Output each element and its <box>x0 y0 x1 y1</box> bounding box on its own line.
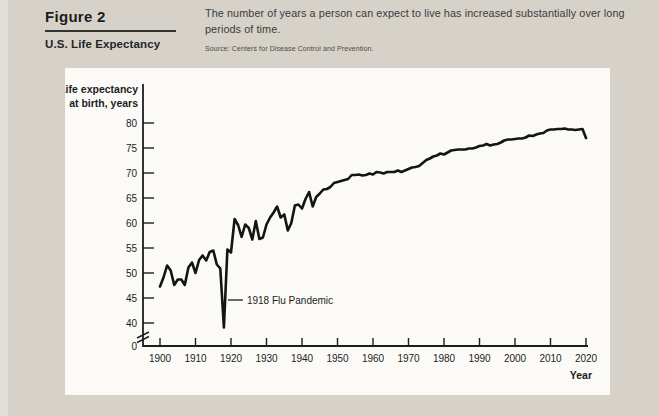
x-tick-label: 1980 <box>433 353 456 364</box>
figure-caption: The number of years a person can expect … <box>205 6 647 37</box>
x-tick-label: 1960 <box>362 353 385 364</box>
x-tick-label: 1900 <box>149 353 172 364</box>
y-tick-label: 65 <box>126 193 138 204</box>
y-tick-label: 45 <box>126 293 138 304</box>
x-tick-label: 1950 <box>326 353 349 364</box>
y-tick-label: 75 <box>126 143 138 154</box>
x-axis-title: Year <box>570 369 592 381</box>
y-tick-label: 80 <box>126 118 138 129</box>
life-expectancy-line <box>160 129 586 328</box>
chart-panel: 4045505560657075800190019101920193019401… <box>65 68 610 395</box>
y-tick-label: 55 <box>126 243 138 254</box>
life-expectancy-chart: 4045505560657075800190019101920193019401… <box>65 68 610 395</box>
y-tick-label: 50 <box>126 268 138 279</box>
source-note: Source: Centers for Disease Control and … <box>205 45 374 52</box>
y-tick-label: 70 <box>126 168 138 179</box>
y-origin-label: 0 <box>131 341 137 352</box>
x-tick-label: 2020 <box>575 353 598 364</box>
page-edge <box>0 0 8 416</box>
x-tick-label: 2000 <box>504 353 527 364</box>
y-tick-label: 40 <box>126 318 138 329</box>
x-tick-label: 1910 <box>184 353 207 364</box>
figure-title: U.S. Life Expectancy <box>45 38 160 50</box>
x-tick-label: 1940 <box>291 353 314 364</box>
y-axis-title-line1: Life expectancy <box>65 83 138 95</box>
x-tick-label: 1970 <box>397 353 420 364</box>
figure-label: Figure 2 <box>45 8 106 25</box>
y-axis-title-line2: at birth, years <box>69 97 138 109</box>
y-tick-label: 60 <box>126 218 138 229</box>
x-tick-label: 1920 <box>220 353 243 364</box>
pandemic-annotation-label: 1918 Flu Pandemic <box>247 295 333 306</box>
x-tick-label: 1990 <box>468 353 491 364</box>
axes <box>143 84 588 346</box>
x-tick-label: 1930 <box>255 353 278 364</box>
x-tick-label: 2010 <box>539 353 562 364</box>
figure-rule <box>45 30 176 32</box>
